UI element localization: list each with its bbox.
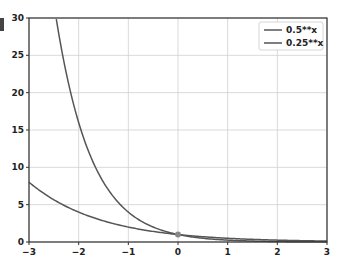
x-tick-label: −3 bbox=[22, 247, 36, 257]
y-axis-ticks: 051015202530 bbox=[11, 13, 29, 247]
x-tick-label: −2 bbox=[72, 247, 86, 257]
y-tick-label: 10 bbox=[11, 162, 24, 172]
x-tick-label: 3 bbox=[324, 247, 330, 257]
y-tick-label: 5 bbox=[18, 200, 24, 210]
x-tick-label: 1 bbox=[225, 247, 231, 257]
x-tick-label: 0 bbox=[175, 247, 181, 257]
y-tick-label: 20 bbox=[11, 88, 24, 98]
x-tick-label: 2 bbox=[274, 247, 280, 257]
line-chart: −3−2−10123 051015202530 0.5**x 0.25**x bbox=[0, 0, 337, 270]
y-tick-label: 25 bbox=[11, 50, 24, 60]
intersection-marker bbox=[175, 232, 181, 238]
y-tick-label: 0 bbox=[18, 237, 24, 247]
x-axis-ticks: −3−2−10123 bbox=[22, 242, 330, 257]
series-line-1 bbox=[56, 19, 327, 242]
x-tick-label: −1 bbox=[121, 247, 135, 257]
grid-lines bbox=[29, 18, 327, 242]
y-tick-label: 15 bbox=[11, 125, 24, 135]
legend-label-1: 0.25**x bbox=[286, 38, 324, 48]
y-tick-label: 30 bbox=[11, 13, 24, 23]
legend: 0.5**x 0.25**x bbox=[259, 22, 324, 50]
legend-label-0: 0.5**x bbox=[286, 25, 317, 35]
